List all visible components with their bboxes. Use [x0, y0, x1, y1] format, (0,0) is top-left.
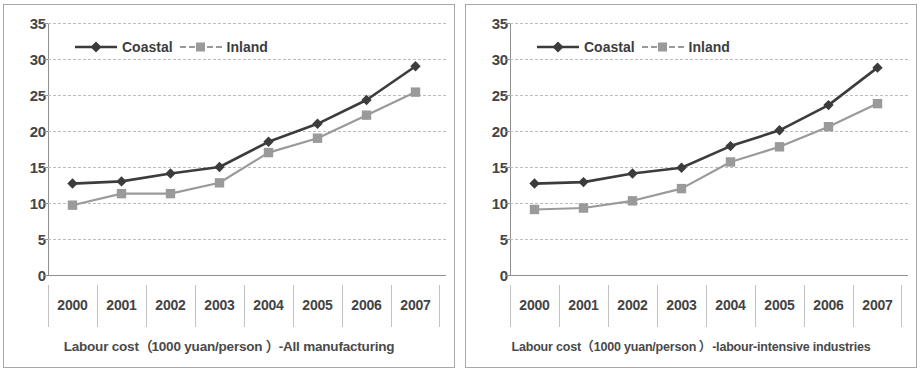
legend-marker-coastal-icon [74, 40, 118, 54]
chart-caption: Labour cost（1000 yuan/person ）-labour-in… [466, 336, 916, 355]
x-axis-tick-label: 2004 [706, 285, 755, 311]
data-point-coastal-2001 [578, 177, 588, 187]
x-axis-tick-label: 2006 [342, 285, 391, 311]
x-axis-tick-label: 2003 [657, 285, 706, 311]
gridline [48, 275, 446, 276]
data-point-inland-2000 [530, 205, 539, 214]
legend-label-inland: Inland [688, 39, 730, 55]
x-axis-tick-label: 2006 [804, 285, 853, 311]
data-point-inland-2007 [411, 87, 420, 96]
data-point-inland-2001 [579, 203, 588, 212]
x-axis-tick-label: 2004 [244, 285, 293, 311]
chart-legend: Coastal Inland [536, 39, 730, 55]
data-point-coastal-2002 [627, 168, 637, 178]
series-layer [510, 23, 902, 275]
data-point-inland-2002 [166, 189, 175, 198]
y-axis-tick-label: 10 [474, 195, 508, 212]
figure-pair: 35302520151050 Coastal Inland [0, 0, 924, 373]
y-axis-tick-label: 25 [474, 87, 508, 104]
x-axis-tick-label: 2005 [755, 285, 804, 311]
plot-region [510, 23, 902, 275]
y-axis-labels: 35302520151050 [8, 5, 46, 275]
legend-label-coastal: Coastal [121, 39, 173, 55]
legend-marker-inland-icon [641, 40, 685, 54]
y-axis-labels: 35302520151050 [470, 5, 508, 275]
legend-entry-inland: Inland [179, 39, 268, 55]
y-axis-tick-label: 5 [474, 231, 508, 248]
series-line-inland [73, 92, 416, 205]
y-axis-tick-label: 30 [12, 51, 46, 68]
data-point-inland-2007 [873, 99, 882, 108]
data-point-coastal-2003 [676, 163, 686, 173]
series-layer [48, 23, 440, 275]
data-point-inland-2003 [677, 184, 686, 193]
legend-entry-coastal: Coastal [74, 39, 173, 55]
chart-panel-all-manufacturing: 35302520151050 Coastal Inland [3, 4, 455, 368]
x-axis-tick-label: 2000 [48, 285, 97, 311]
legend-marker-coastal-icon [536, 40, 580, 54]
y-axis-tick-label: 5 [12, 231, 46, 248]
y-axis-tick-label: 10 [12, 195, 46, 212]
x-axis-tick-label: 2007 [391, 285, 440, 311]
chart-panel-labour-intensive-industries: 35302520151050 Coastal Inland [465, 4, 917, 368]
data-point-coastal-2004 [263, 137, 273, 147]
legend-entry-inland: Inland [641, 39, 730, 55]
y-axis-tick [505, 275, 510, 276]
y-axis-tick-label: 15 [12, 159, 46, 176]
legend-marker-inland-icon [179, 40, 223, 54]
series-line-coastal [73, 66, 416, 183]
data-point-inland-2003 [215, 178, 224, 187]
y-axis-tick-label: 0 [474, 267, 508, 284]
x-axis-labels: 20002001200220032004200520062007 [48, 285, 440, 311]
y-axis-tick-label: 30 [474, 51, 508, 68]
data-point-inland-2001 [117, 189, 126, 198]
data-point-inland-2005 [313, 134, 322, 143]
x-axis-labels: 20002001200220032004200520062007 [510, 285, 902, 311]
y-axis-tick-label: 35 [12, 15, 46, 32]
y-axis-tick-label: 35 [474, 15, 508, 32]
data-point-coastal-2005 [312, 119, 322, 129]
data-point-coastal-2004 [725, 141, 735, 151]
data-point-inland-2004 [726, 157, 735, 166]
data-point-inland-2000 [68, 200, 77, 209]
data-point-inland-2005 [775, 142, 784, 151]
data-point-coastal-2000 [67, 178, 77, 188]
x-axis-tick-label: 2002 [608, 285, 657, 311]
x-axis-tick-label: 2003 [195, 285, 244, 311]
x-axis-tick-label: 2002 [146, 285, 195, 311]
y-axis-tick-label: 20 [12, 123, 46, 140]
data-point-coastal-2003 [214, 162, 224, 172]
data-point-coastal-2000 [529, 178, 539, 188]
y-axis-tick [43, 275, 48, 276]
data-point-inland-2006 [362, 110, 371, 119]
data-point-coastal-2001 [116, 176, 126, 186]
chart-caption: Labour cost（1000 yuan/person ）-All manuf… [4, 335, 454, 355]
x-axis-tick-label: 2001 [559, 285, 608, 311]
data-point-inland-2002 [628, 196, 637, 205]
chart-legend: Coastal Inland [74, 39, 268, 55]
plot-region [48, 23, 440, 275]
data-point-inland-2006 [824, 122, 833, 131]
chart-area: 35302520151050 Coastal Inland [4, 5, 454, 367]
data-point-coastal-2005 [774, 125, 784, 135]
legend-label-inland: Inland [226, 39, 268, 55]
x-axis-tick-label: 2000 [510, 285, 559, 311]
y-axis-tick-label: 20 [474, 123, 508, 140]
gridline [510, 275, 908, 276]
x-axis-tick-label: 2001 [97, 285, 146, 311]
data-point-inland-2004 [264, 148, 273, 157]
chart-area: 35302520151050 Coastal Inland [466, 5, 916, 367]
y-axis-tick-label: 25 [12, 87, 46, 104]
x-axis-tick-label: 2005 [293, 285, 342, 311]
x-axis-tick-label: 2007 [853, 285, 902, 311]
legend-label-coastal: Coastal [583, 39, 635, 55]
y-axis-tick-label: 0 [12, 267, 46, 284]
legend-entry-coastal: Coastal [536, 39, 635, 55]
y-axis-tick-label: 15 [474, 159, 508, 176]
data-point-coastal-2002 [165, 168, 175, 178]
